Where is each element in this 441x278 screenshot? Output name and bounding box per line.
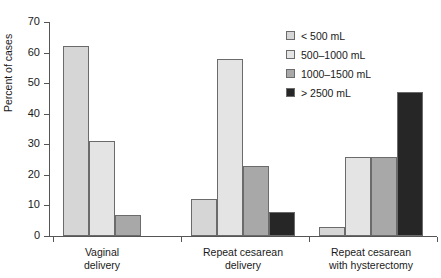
x-axis-category-label-line: delivery — [40, 259, 164, 272]
bar — [89, 141, 115, 236]
x-axis-tick-mark — [53, 237, 54, 242]
y-axis-tick-label: 70 — [16, 16, 40, 27]
x-axis-category-label-line: Repeat cesarean — [309, 246, 433, 259]
x-axis-category-label-line: delivery — [181, 259, 305, 272]
bar — [269, 212, 295, 236]
y-axis-tick-label: 0 — [16, 230, 40, 241]
x-axis-category-label-line: Repeat cesarean — [181, 246, 305, 259]
x-axis-category-label: Repeat cesareandelivery — [181, 246, 305, 271]
bar — [397, 92, 423, 236]
y-axis-tick-label: 10 — [16, 199, 40, 210]
legend-item: 1000–1500 mL — [286, 64, 371, 83]
x-axis-tick-mark — [181, 237, 182, 242]
bar — [345, 157, 371, 236]
y-axis-tick-labels: 706050403020100 — [8, 0, 40, 278]
legend-item-label: > 2500 mL — [301, 87, 351, 99]
bar — [115, 215, 141, 236]
y-axis-tick-label: 50 — [16, 77, 40, 88]
bar — [319, 227, 345, 236]
bar-chart: Percent of cases 706050403020100 Vaginal… — [0, 0, 441, 278]
x-axis-category-label-line: with hysterectomy — [309, 259, 433, 272]
bar — [371, 157, 397, 236]
legend-item-label: < 500 mL — [301, 30, 345, 42]
bar — [191, 199, 217, 236]
y-axis-tick-label: 20 — [16, 169, 40, 180]
legend: < 500 mL500–1000 mL1000–1500 mL> 2500 mL — [286, 26, 371, 102]
x-axis-category-label: Repeat cesareanwith hysterectomy — [309, 246, 433, 271]
bar — [63, 46, 89, 236]
x-axis-category-label-line: Vaginal — [40, 246, 164, 259]
legend-item-label: 500–1000 mL — [301, 49, 365, 61]
bar — [217, 59, 243, 236]
x-axis-tick-mark — [437, 237, 438, 242]
x-axis-tick-mark — [309, 237, 310, 242]
legend-item-label: 1000–1500 mL — [301, 68, 371, 80]
legend-swatch-icon — [286, 50, 295, 59]
legend-swatch-icon — [286, 31, 295, 40]
y-axis-tick-label: 60 — [16, 47, 40, 58]
legend-item: > 2500 mL — [286, 83, 371, 102]
y-axis-tick-label: 40 — [16, 108, 40, 119]
y-axis-tick-label: 30 — [16, 138, 40, 149]
legend-item: < 500 mL — [286, 26, 371, 45]
plot-area — [49, 22, 437, 236]
legend-swatch-icon — [286, 88, 295, 97]
x-axis-category-label: Vaginaldelivery — [40, 246, 164, 271]
bar — [243, 166, 269, 236]
x-axis-line — [49, 236, 437, 237]
legend-swatch-icon — [286, 69, 295, 78]
legend-item: 500–1000 mL — [286, 45, 371, 64]
